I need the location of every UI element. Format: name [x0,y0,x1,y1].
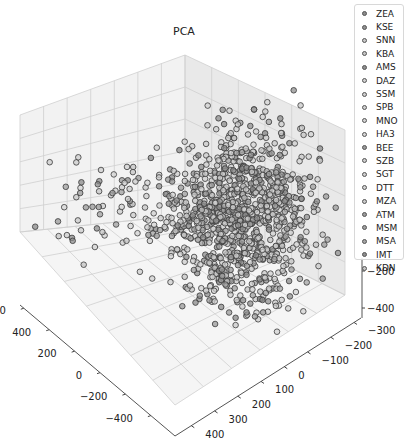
data-point [137,269,143,275]
data-point [187,283,193,289]
data-point [151,222,157,228]
legend-item-snn: SNN [355,34,403,47]
data-point [306,154,312,160]
data-point [240,304,246,310]
data-point [96,204,102,210]
data-point [291,88,297,94]
data-point [260,156,266,162]
data-point [314,199,320,205]
data-point [170,220,176,226]
data-point [216,116,222,122]
pca-3d-scatter-plot: 6004002000−200−400−300−200−1000100200300… [0,0,411,448]
data-point [249,169,255,175]
data-point [203,191,209,197]
data-point [280,144,286,150]
data-point [222,145,228,151]
data-point [242,195,248,201]
data-point [133,179,139,185]
data-point [279,121,285,127]
data-point [75,218,81,224]
data-point [199,164,205,170]
data-point [128,223,134,229]
data-point [61,204,67,210]
data-point [228,292,234,298]
legend-label: ATM [376,210,395,220]
data-point [157,203,163,209]
data-point [243,187,249,193]
data-point [272,203,278,209]
data-point [304,245,310,251]
data-point [283,234,289,240]
data-point [236,233,242,239]
data-point [237,159,243,165]
legend-marker-icon [362,92,367,97]
data-point [79,180,85,186]
data-point [201,201,207,207]
y-tick-label: −100 [322,355,349,366]
data-point [211,288,217,294]
data-point [110,190,116,196]
data-point [190,177,196,183]
data-point [248,152,254,158]
data-point [304,214,310,220]
data-point [145,180,151,186]
data-point [235,122,241,128]
data-point [218,304,224,310]
data-point [199,207,205,213]
data-point [264,203,270,209]
data-point [325,237,331,243]
legend-label: IMT [376,250,392,260]
x-tick [46,330,49,331]
legend-item-mno: MNO [355,114,403,127]
data-point [63,184,69,190]
data-point [247,259,253,265]
data-point [169,233,175,239]
legend-label: MNO [376,116,398,126]
legend-marker-icon [362,145,367,150]
data-point [217,175,223,181]
data-point [290,214,296,220]
data-point [182,139,188,145]
data-point [274,329,280,335]
data-point [56,233,62,239]
data-point [154,145,160,151]
data-point [177,147,183,153]
data-point [246,208,252,214]
data-point [259,148,265,154]
data-point [64,232,70,238]
data-point [196,153,202,159]
data-point [175,223,181,229]
data-point [187,161,193,167]
data-point [55,219,61,225]
legend-label: KDN [376,263,396,273]
data-point [193,300,199,306]
data-point [244,310,250,316]
data-point [287,140,293,146]
data-point [124,164,130,170]
data-point [190,258,196,264]
y-tick [191,426,194,428]
y-tick-label: 200 [252,399,271,410]
data-point [315,177,321,183]
y-tick [215,411,218,413]
y-tick-label: 300 [229,414,248,425]
data-point [124,238,130,244]
data-point [307,251,313,257]
data-point [168,253,174,259]
data-point [177,213,183,219]
legend-marker-icon [362,51,367,56]
data-point [274,185,280,191]
data-point [253,129,259,135]
data-point [183,200,189,206]
legend-item-spb: SPB [355,101,403,114]
data-point [219,267,225,273]
data-point [47,159,53,165]
legend-label: KSE [376,22,393,32]
data-point [147,238,153,244]
legend-marker-icon [362,105,367,110]
data-point [231,135,237,141]
data-point [265,99,271,105]
data-point [298,205,304,211]
data-point [244,272,250,278]
data-point [298,185,304,191]
